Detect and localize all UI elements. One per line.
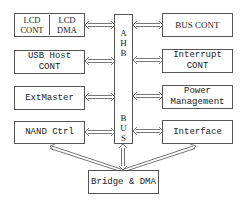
lcd-cont-label: LCD CONT: [15, 15, 49, 35]
bus-label-bottom: B U S: [115, 113, 132, 143]
lcd-dma-label: LCD DMA: [49, 15, 84, 35]
interrupt-cont-block: Interrupt CONT: [162, 49, 233, 73]
extmaster-block: ExtMaster: [14, 86, 85, 110]
power-management-block: Power Management: [162, 85, 233, 109]
bus-cont-block: BUS CONT: [162, 13, 233, 37]
ahb-bus-block: A H B B U S: [114, 14, 133, 144]
lcd-block: LCD CONT LCD DMA: [14, 13, 85, 37]
bridge-dma-block: Bridge & DMA: [88, 170, 159, 194]
bus-label-top: A H B: [115, 28, 132, 58]
interface-block: Interface: [162, 120, 233, 144]
usb-host-cont-block: USB Host CONT: [14, 50, 85, 74]
nand-ctrl-block: NAND Ctrl: [14, 121, 85, 144]
